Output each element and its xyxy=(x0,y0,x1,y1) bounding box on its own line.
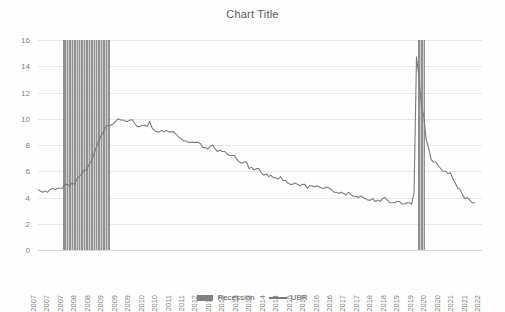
legend-label-uer: UER xyxy=(291,293,308,303)
uer-swatch-icon xyxy=(269,297,287,299)
y-tick-label-12: 12 xyxy=(21,88,30,97)
y-tick-label-14: 14 xyxy=(21,62,30,71)
plot-area xyxy=(38,40,482,250)
chart-title: Chart Title xyxy=(0,8,505,20)
y-tick-label-0: 0 xyxy=(26,246,30,255)
y-axis: 1614121086420 xyxy=(0,40,34,250)
y-tick-label-2: 2 xyxy=(26,219,30,228)
recession-swatch-icon xyxy=(197,295,213,301)
chart-legend: Recession UER xyxy=(0,293,505,303)
y-tick-label-4: 4 xyxy=(26,193,30,202)
y-tick-label-8: 8 xyxy=(26,141,30,150)
legend-label-recession: Recession xyxy=(217,293,254,303)
y-tick-label-6: 6 xyxy=(26,167,30,176)
uer-series-line xyxy=(38,40,482,250)
legend-item-recession[interactable]: Recession xyxy=(197,293,254,303)
legend-item-uer[interactable]: UER xyxy=(269,293,308,303)
y-tick-label-16: 16 xyxy=(21,36,30,45)
x-axis: 2007200720072008200820092009200920102010… xyxy=(38,251,482,297)
y-tick-label-10: 10 xyxy=(21,114,30,123)
